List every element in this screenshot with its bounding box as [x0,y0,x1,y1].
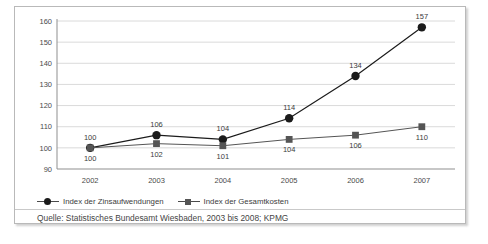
y-tick-150: 150 [39,38,52,47]
data-point-marker [352,132,359,139]
x-tick-2002: 2002 [82,176,99,185]
data-label: 106 [349,141,362,150]
data-label: 100 [84,133,97,142]
source-divider: Quelle: Statistisches Bundesamt Wiesbade… [15,209,465,223]
y-tick-120: 120 [39,101,52,110]
legend-label-gesamtkosten: Index der Gesamtkosten [204,198,289,206]
y-tick-140: 140 [39,59,52,68]
line-chart-plot: 90100110120130140150160 2002200320042005… [15,7,465,223]
data-label: 101 [217,152,230,161]
y-tick-100: 100 [39,144,52,153]
x-tick-2004: 2004 [214,176,231,185]
legend-label-zinsaufwendungen: Index der Zinsaufwendungen [63,198,164,206]
data-label: 102 [150,150,163,159]
data-label: 134 [349,61,362,70]
x-tick-2006: 2006 [347,176,364,185]
legend-item-gesamtkosten[interactable]: Index der Gesamtkosten [178,197,289,206]
legend-item-zinsaufwendungen[interactable]: Index der Zinsaufwendungen [37,197,164,206]
data-label: 106 [150,120,163,129]
data-point-marker [418,123,425,130]
data-point-marker [152,131,160,139]
data-point-marker [87,144,94,151]
y-tick-160: 160 [39,17,52,26]
y-tick-90: 90 [44,165,52,174]
data-point-marker [219,135,227,143]
series-line-0 [90,27,422,148]
data-point-marker [285,114,293,122]
data-point-marker [153,140,160,147]
data-point-labels: 100106104114134157100102101104106110 [84,12,428,163]
source-note: Quelle: Statistisches Bundesamt Wiesbade… [37,213,465,223]
y-tick-110: 110 [40,122,52,131]
data-label: 104 [283,145,296,154]
data-point-marker [418,23,426,31]
data-point-marker [219,142,226,149]
data-point-marker [286,136,293,143]
series-line-1 [90,127,422,148]
data-label: 114 [283,103,295,112]
y-axis-tick-labels: 90100110120130140150160 [39,17,52,174]
data-label: 110 [416,133,428,142]
chart-legend: Index der Zinsaufwendungen Index der Ges… [37,197,289,206]
y-tick-130: 130 [39,80,52,89]
legend-swatch-square-icon [178,197,200,206]
legend-swatch-circle-icon [37,197,59,206]
chart-figure-panel: 90100110120130140150160 2002200320042005… [14,6,466,224]
x-tick-2007: 2007 [413,176,430,185]
data-label: 104 [217,124,230,133]
x-axis-tick-labels: 200220032004200520062007 [82,176,430,185]
x-tick-2005: 2005 [281,176,298,185]
x-tick-2003: 2003 [148,176,165,185]
data-label: 157 [416,12,429,21]
data-point-marker [351,72,359,80]
data-label: 100 [84,154,97,163]
gridlines [57,21,455,169]
